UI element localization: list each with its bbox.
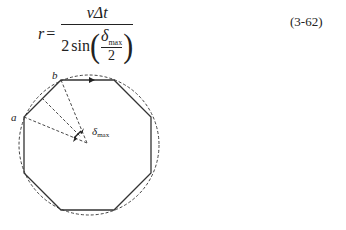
label-delta: δmax — [92, 125, 110, 139]
radius-a — [24, 117, 87, 143]
label-delta-sub: max — [97, 131, 110, 139]
label-b: b — [52, 69, 58, 81]
direction-arrow-icon — [89, 77, 95, 83]
bisector — [42, 98, 81, 137]
radius-b — [61, 80, 87, 143]
octagon-circle-figure: b a δmax — [0, 0, 346, 230]
label-a: a — [11, 111, 17, 123]
angle-arrow-down-icon — [73, 136, 77, 142]
circumscribed-circle — [19, 75, 159, 215]
